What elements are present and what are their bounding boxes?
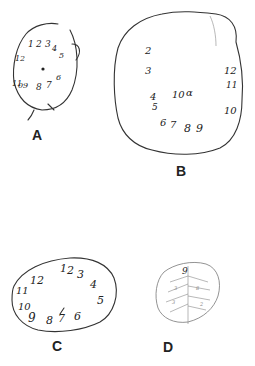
svg-text:8: 8	[46, 314, 53, 327]
svg-text:6: 6	[160, 117, 167, 128]
leaf-drawing-d: 9 3 8 3 2	[130, 250, 240, 330]
svg-text:4: 4	[51, 44, 57, 53]
svg-text:12: 12	[30, 274, 44, 287]
svg-text:12: 12	[15, 54, 25, 63]
svg-text:7: 7	[46, 80, 52, 90]
clock-drawing-a: 1 2 3 4 5 12 6 11 09 8 7	[0, 0, 110, 140]
svg-text:7: 7	[170, 119, 177, 130]
svg-text:5: 5	[59, 51, 64, 60]
svg-text:9: 9	[28, 311, 36, 325]
svg-text:7: 7	[58, 312, 65, 325]
svg-text:5: 5	[152, 102, 158, 112]
panel-a: 1 2 3 4 5 12 6 11 09 8 7 A	[0, 0, 110, 150]
svg-text:2: 2	[144, 45, 151, 56]
svg-text:2: 2	[35, 39, 42, 49]
svg-text:2: 2	[66, 264, 74, 277]
svg-text:1: 1	[60, 262, 67, 275]
svg-text:2: 2	[199, 301, 203, 307]
svg-text:9: 9	[182, 266, 188, 276]
svg-text:3: 3	[172, 299, 175, 305]
svg-text:ɑ: ɑ	[186, 87, 193, 98]
svg-text:11: 11	[226, 80, 237, 90]
panel-b: 2 3 4 5 10 ɑ 12 11 10 6 7 8 9 B	[100, 0, 255, 180]
panel-label-d: D	[163, 339, 173, 355]
svg-text:8: 8	[36, 82, 42, 92]
svg-text:3: 3	[174, 285, 177, 291]
svg-text:10: 10	[224, 105, 237, 116]
panel-c: 1 2 3 4 5 12 11 10 9 8 7 6 C	[0, 250, 130, 366]
svg-text:3: 3	[145, 65, 151, 76]
svg-text:12: 12	[224, 65, 237, 76]
panel-label-c: C	[52, 338, 62, 354]
svg-text:6: 6	[74, 310, 81, 323]
svg-text:3: 3	[77, 268, 84, 281]
svg-text:11: 11	[16, 285, 29, 296]
panel-label-a: A	[32, 127, 42, 143]
svg-text:6: 6	[56, 73, 61, 82]
panel-label-b: B	[176, 163, 186, 179]
panel-d: 9 3 8 3 2 D	[130, 250, 240, 366]
svg-text:8: 8	[184, 122, 191, 135]
svg-text:4: 4	[89, 278, 97, 291]
svg-text:09: 09	[18, 81, 28, 90]
clock-drawing-b: 2 3 4 5 10 ɑ 12 11 10 6 7 8 9	[100, 0, 255, 180]
svg-text:1: 1	[28, 39, 34, 49]
svg-text:9: 9	[196, 122, 203, 135]
clock-drawing-c: 1 2 3 4 5 12 11 10 9 8 7 6	[0, 250, 130, 350]
svg-text:8: 8	[196, 285, 199, 291]
svg-text:5: 5	[97, 294, 104, 307]
svg-text:4: 4	[149, 91, 156, 102]
svg-text:10: 10	[172, 89, 185, 100]
svg-text:3: 3	[45, 39, 51, 49]
